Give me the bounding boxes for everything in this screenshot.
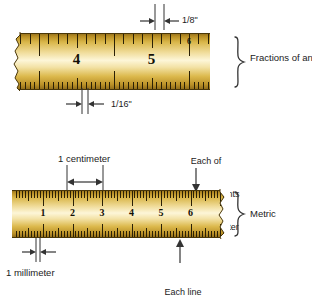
ruler-number: 6 bbox=[184, 208, 198, 218]
ruler-number: 4 bbox=[70, 52, 84, 67]
metric-bottom-note: Each line represents 1/1000 of a meter bbox=[120, 265, 246, 304]
metric-torn-right-edge bbox=[214, 189, 230, 239]
ruler-number: 5 bbox=[154, 208, 168, 218]
metric-section-label-text: Metric bbox=[250, 208, 276, 219]
metric-cm-numbers: 123456 bbox=[12, 190, 228, 238]
ruler-number: 6 bbox=[182, 38, 196, 46]
centimeter-span-arrows bbox=[63, 165, 119, 191]
metric-bottom-note-line1: Each line bbox=[120, 287, 246, 298]
imperial-inch-numbers: 456 bbox=[12, 33, 210, 90]
eighth-inch-label: 1/8" bbox=[182, 15, 198, 26]
metric-ruler: 123456 bbox=[12, 190, 228, 238]
imperial-section-label: Fractions of an inch bbox=[250, 52, 312, 64]
metric-top-note-line1: Each of bbox=[148, 156, 264, 167]
imperial-section-label-text: Fractions of an inch bbox=[250, 52, 312, 63]
ruler-number: 2 bbox=[66, 208, 80, 218]
millimeter-callout-arrows bbox=[14, 238, 70, 262]
ruler-number: 1 bbox=[36, 208, 50, 218]
imperial-right-brace bbox=[233, 36, 247, 88]
sixteenth-inch-label: 1/16" bbox=[111, 99, 132, 110]
diagram-canvas: 1/8" 456 Fractions of an inch 1/16" Each… bbox=[0, 0, 312, 304]
metric-section-label: Metric bbox=[250, 208, 276, 219]
metric-right-brace bbox=[233, 191, 247, 237]
millimeter-label: 1 millimeter bbox=[6, 267, 55, 278]
imperial-ruler: 456 bbox=[12, 33, 210, 90]
ruler-number: 5 bbox=[145, 52, 159, 67]
metric-top-note-arrow bbox=[189, 168, 203, 192]
ruler-number: 3 bbox=[95, 208, 109, 218]
imperial-torn-left-edge bbox=[10, 32, 24, 91]
metric-bottom-note-arrow bbox=[173, 239, 187, 263]
centimeter-label: 1 centimeter bbox=[58, 153, 110, 164]
ruler-number: 4 bbox=[125, 208, 139, 218]
